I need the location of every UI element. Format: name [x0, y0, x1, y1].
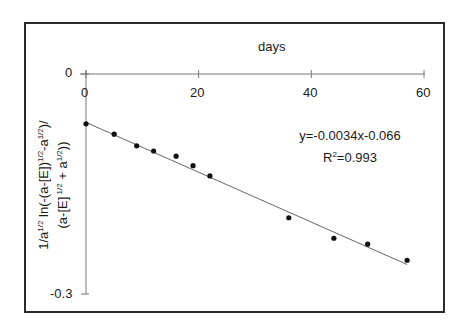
data-point	[405, 258, 410, 263]
y-axis-title: 1/a1/2 ln(-(a-[E])1/2-a1/2)/ (a-[E] 1/2 …	[33, 120, 72, 249]
y-tick-label-0: 0	[65, 65, 72, 80]
y-axis-ticks	[81, 74, 89, 294]
r-squared: R2=0.993	[299, 145, 401, 167]
y-axis-title-line-1: 1/a1/2 ln(-(a-[E])1/2-a1/2)/	[33, 120, 52, 249]
data-point	[134, 143, 139, 148]
r2-prefix: R	[323, 150, 332, 165]
y-title-part: ))	[55, 142, 70, 151]
x-axis-title: days	[258, 39, 285, 54]
y-title-part: + a	[55, 161, 70, 183]
data-point	[207, 173, 212, 178]
regression-annotation: y=-0.0034x-0.066 R2=0.993	[299, 126, 401, 167]
y-title-part: ln(-(a-[E])	[36, 162, 51, 221]
y-title-part: 1/a	[36, 232, 51, 250]
y-tick-label-min: -0.3	[50, 286, 72, 301]
y-title-sup: 1/2	[55, 183, 64, 196]
y-title-part: )/	[36, 120, 51, 128]
y-title-part: -a	[36, 139, 51, 151]
y-title-sup: 1/2	[36, 221, 45, 232]
x-tick-label-20: 20	[190, 85, 204, 100]
regression-equation: y=-0.0034x-0.066	[299, 126, 401, 145]
data-point	[190, 163, 195, 168]
chart-container: 0 20 40 60 0 -0.3 days 1/a1/2 ln(-(a-[E]…	[0, 0, 467, 330]
data-point	[151, 148, 156, 153]
y-title-part: (a-[E]	[55, 197, 70, 229]
data-point	[365, 242, 370, 247]
y-axis-title-line-2: (a-[E] 1/2 + a1/2))	[52, 120, 71, 249]
y-title-sup: 1/2	[36, 151, 45, 162]
data-point	[331, 236, 336, 241]
y-title-sup: 1/2	[55, 150, 64, 161]
data-point	[174, 154, 179, 159]
x-tick-label-60: 60	[416, 85, 430, 100]
r2-value: =0.993	[337, 150, 377, 165]
data-point	[286, 215, 291, 220]
x-tick-label-40: 40	[303, 85, 317, 100]
y-title-sup: 1/2	[36, 128, 45, 139]
x-tick-label-0: 0	[81, 85, 88, 100]
data-point	[112, 132, 117, 137]
data-point	[83, 121, 88, 126]
